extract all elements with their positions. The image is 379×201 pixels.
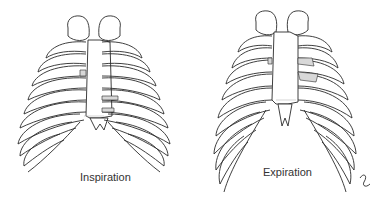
expiration-rib-cage: [0, 0, 379, 201]
rib-cage-diagram: Inspiration Expiration: [0, 0, 379, 201]
inspiration-caption: Inspiration: [80, 171, 131, 183]
expiration-caption: Expiration: [263, 166, 312, 178]
